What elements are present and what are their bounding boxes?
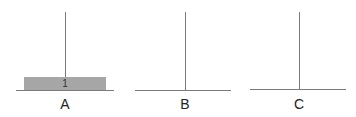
peg-b-label: B	[175, 96, 195, 112]
peg-c-label: C	[289, 96, 309, 112]
peg-b-base	[135, 90, 231, 91]
disk-number: 1	[62, 78, 68, 89]
peg-c-pole	[299, 12, 300, 89]
peg-a-label: A	[55, 96, 75, 112]
peg-a-base	[16, 90, 114, 91]
disk-1[interactable]: 1	[24, 77, 106, 90]
peg-c-base	[250, 89, 346, 90]
peg-b-pole	[185, 12, 186, 90]
